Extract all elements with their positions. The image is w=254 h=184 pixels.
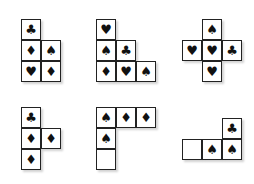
club-icon: ♣ <box>226 44 238 57</box>
grid-cell: ♠ <box>96 40 116 61</box>
club-icon: ♣ <box>25 23 37 36</box>
grid-cell <box>182 139 202 160</box>
heart-icon: ♥ <box>186 44 198 57</box>
spade-icon: ♠ <box>100 44 112 57</box>
grid-cell: ♠ <box>96 128 116 149</box>
grid-cell <box>96 149 116 170</box>
grid-cell: ♥ <box>96 19 116 40</box>
grid-cell: ♠ <box>96 107 116 128</box>
club-icon: ♣ <box>120 44 132 57</box>
diamond-icon: ♦ <box>100 65 112 78</box>
grid-cell: ♠ <box>41 40 61 61</box>
grid-cell: ♥ <box>116 61 136 82</box>
grid-cell: ♦ <box>21 40 41 61</box>
heart-icon: ♥ <box>206 65 218 78</box>
grid-cell: ♥ <box>21 61 41 82</box>
spade-icon: ♠ <box>206 23 218 36</box>
grid-cell: ♦ <box>41 128 61 149</box>
diamond-icon: ♦ <box>45 132 57 145</box>
grid-cell: ♠ <box>202 19 222 40</box>
heart-icon: ♥ <box>120 65 132 78</box>
grid-cell: ♦ <box>21 149 41 170</box>
diamond-icon: ♦ <box>25 153 37 166</box>
diamond-icon: ♦ <box>25 132 37 145</box>
grid-cell: ♥ <box>202 40 222 61</box>
grid-cell: ♦ <box>116 107 136 128</box>
spade-icon: ♠ <box>45 44 57 57</box>
grid-cell: ♦ <box>41 61 61 82</box>
spade-icon: ♠ <box>226 143 238 156</box>
grid-cell: ♣ <box>21 107 41 128</box>
club-icon: ♣ <box>25 111 37 124</box>
spade-icon: ♠ <box>100 111 112 124</box>
grid-cell: ♣ <box>21 19 41 40</box>
grid-cell: ♥ <box>182 40 202 61</box>
spade-icon: ♠ <box>100 132 112 145</box>
grid-cell: ♦ <box>136 107 156 128</box>
club-icon: ♣ <box>226 122 238 135</box>
spade-icon: ♠ <box>206 143 218 156</box>
grid-cell: ♣ <box>222 118 242 139</box>
grid-cell: ♠ <box>202 139 222 160</box>
diamond-icon: ♦ <box>140 111 152 124</box>
heart-icon: ♥ <box>206 44 218 57</box>
grid-cell: ♥ <box>202 61 222 82</box>
grid-cell: ♦ <box>21 128 41 149</box>
grid-cell: ♠ <box>222 139 242 160</box>
grid-cell: ♦ <box>96 61 116 82</box>
grid-cell: ♣ <box>116 40 136 61</box>
diamond-icon: ♦ <box>45 65 57 78</box>
diamond-icon: ♦ <box>25 44 37 57</box>
grid-cell: ♠ <box>136 61 156 82</box>
heart-icon: ♥ <box>25 65 37 78</box>
grid-cell: ♣ <box>222 40 242 61</box>
diamond-icon: ♦ <box>120 111 132 124</box>
spade-icon: ♠ <box>140 65 152 78</box>
heart-icon: ♥ <box>100 23 112 36</box>
